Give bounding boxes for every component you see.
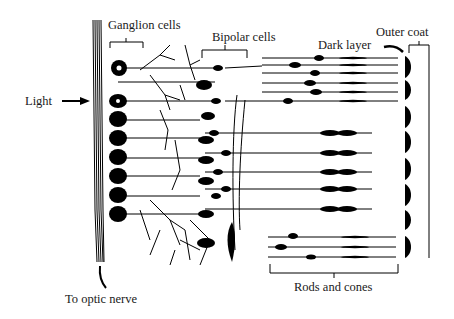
ganglion-axons [118, 66, 262, 214]
rods-cones-bracket [270, 264, 398, 278]
dark-layer [405, 56, 411, 258]
rods-cones-label: Rods and cones [294, 280, 372, 295]
light-label: Light [25, 94, 52, 109]
bipolar-cells-label: Bipolar cells [212, 30, 276, 45]
light-arrow [62, 97, 90, 105]
cones [320, 130, 357, 212]
nerve-fiber-bundle [93, 20, 104, 262]
rod-nuclei [275, 55, 324, 260]
bipolar-bracket [202, 45, 247, 58]
ganglion-cells-label: Ganglion cells [108, 18, 181, 33]
outer-coat-label: Outer coat [376, 25, 428, 40]
outer-coat-bracket [409, 41, 429, 53]
dark-layer-label: Dark layer [318, 38, 371, 53]
rod-outer-segments [339, 57, 369, 258]
optic-nerve-arrow [100, 266, 106, 288]
ganglion-cells [109, 60, 127, 222]
retina-diagram [0, 0, 454, 319]
optic-nerve-label: To optic nerve [65, 292, 137, 307]
rods-top [262, 58, 398, 101]
dark-layer-arrow [384, 46, 403, 52]
rods-bottom [268, 237, 396, 257]
ganglion-bracket [110, 38, 143, 48]
